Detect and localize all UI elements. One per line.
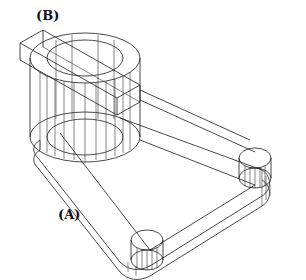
label-b: (B) (36, 8, 59, 23)
wireframe-drawing (0, 0, 306, 280)
small-cylinder-bottom (131, 230, 163, 270)
large-cylinder (30, 33, 140, 162)
label-a: (A) (58, 207, 80, 222)
wireframe-diagram: (B) (A) (0, 0, 306, 280)
